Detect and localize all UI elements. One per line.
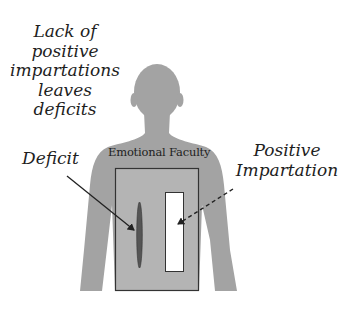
positive-impartation-line: Impartation	[232, 160, 341, 180]
positive-impartation-label: Positive Impartation	[232, 140, 341, 180]
title-text: Lack of positive impartations leaves def…	[10, 22, 120, 120]
title-line: positive	[10, 42, 120, 62]
deficit-ellipse	[137, 202, 143, 268]
title-line: deficits	[10, 100, 120, 120]
emotional-faculty-label: Emotional Faculty	[108, 147, 210, 159]
diagram-canvas: Lack of positive impartations leaves def…	[0, 0, 341, 314]
title-line: leaves	[10, 81, 120, 101]
title-line: Lack of	[10, 22, 120, 42]
emotional-faculty-box	[116, 169, 199, 291]
deficit-label: Deficit	[22, 150, 79, 167]
positive-impartation-line: Positive	[232, 140, 341, 160]
title-line: impartations	[10, 61, 120, 81]
positive-impartation-rect	[166, 193, 184, 272]
